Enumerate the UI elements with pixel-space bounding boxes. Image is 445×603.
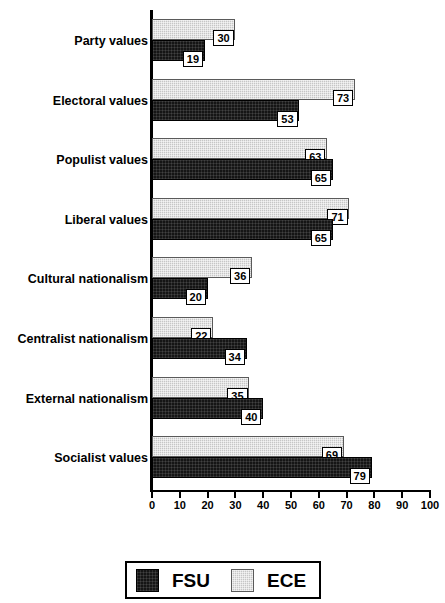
category-label: Socialist values [0, 451, 148, 465]
bar-ece [152, 198, 349, 219]
bar-value-label: 34 [225, 349, 245, 365]
legend-entry-fsu: FSU [136, 569, 210, 592]
category-label: Populist values [0, 153, 148, 167]
bar-value-label: 30 [213, 30, 233, 46]
bar-ece [152, 79, 355, 100]
x-tick-label: 70 [332, 499, 362, 512]
bar-value-label: 40 [241, 409, 261, 425]
bar-value-label: 19 [183, 51, 203, 67]
x-tick-label: 90 [387, 499, 417, 512]
legend-label-fsu: FSU [172, 571, 210, 591]
bar-fsu [152, 457, 372, 478]
bar-value-label: 73 [333, 90, 353, 106]
x-tick [318, 490, 320, 498]
category-label: Electoral values [0, 94, 148, 108]
legend-swatch-fsu-icon [136, 569, 159, 592]
bar-ece [152, 436, 344, 457]
bar-value-label: 65 [311, 230, 331, 246]
category-label: Cultural nationalism [0, 272, 148, 286]
legend-swatch-ece-icon [231, 569, 254, 592]
bar-value-label: 36 [230, 268, 250, 284]
category-label: Liberal values [0, 213, 148, 227]
bar-ece [152, 138, 327, 159]
x-tick-label: 10 [165, 499, 195, 512]
x-tick [290, 490, 292, 498]
x-tick [151, 490, 153, 498]
x-tick [207, 490, 209, 498]
x-tick-label: 80 [359, 499, 389, 512]
x-tick-label: 0 [137, 499, 167, 512]
x-tick-label: 30 [220, 499, 250, 512]
category-label: Centralist nationalism [0, 332, 148, 346]
x-tick [401, 490, 403, 498]
bar-value-label: 20 [186, 289, 206, 305]
x-tick [429, 490, 431, 498]
x-tick [373, 490, 375, 498]
bar-value-label: 79 [350, 468, 370, 484]
x-tick [234, 490, 236, 498]
x-tick-label: 20 [193, 499, 223, 512]
x-tick [179, 490, 181, 498]
category-label: Party values [0, 34, 148, 48]
legend-label-ece: ECE [267, 571, 306, 591]
x-tick [346, 490, 348, 498]
x-tick-label: 50 [276, 499, 306, 512]
legend-entry-ece: ECE [231, 569, 306, 592]
chart-legend: FSU ECE [125, 561, 321, 599]
x-tick-label: 60 [304, 499, 334, 512]
bar-fsu [152, 219, 333, 240]
bar-fsu [152, 159, 333, 180]
bar-value-label: 53 [277, 111, 297, 127]
x-tick-label: 40 [248, 499, 278, 512]
bar-value-label: 65 [311, 170, 331, 186]
category-label: External nationalism [0, 392, 148, 406]
bar-chart: 0102030405060708090100 Party valuesElect… [0, 0, 445, 603]
x-tick [262, 490, 264, 498]
x-tick-label: 100 [415, 499, 445, 512]
